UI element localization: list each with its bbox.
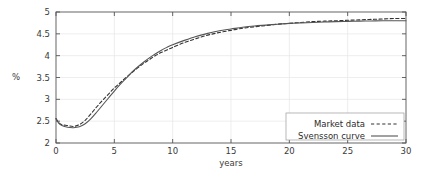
x-tick-label: 20 [284, 146, 295, 156]
x-tick-label: 25 [342, 146, 353, 156]
y-axis-label: % [12, 72, 20, 82]
y-tick-label: 2 [45, 138, 50, 148]
y-tick-label: 3.5 [36, 73, 50, 83]
chart-figure: 051015202530 22.533.544.55 years % Marke… [0, 0, 424, 171]
legend-label-2: Svensson curve [298, 131, 365, 141]
x-tick-label: 30 [401, 146, 412, 156]
chart-legend: Market dataSvensson curve [286, 113, 404, 141]
x-tick-label: 5 [112, 146, 117, 156]
y-tick-label: 4 [45, 51, 50, 61]
y-tick-label: 3 [45, 94, 50, 104]
x-tick-label: 0 [53, 146, 58, 156]
y-tick-label: 4.5 [36, 29, 50, 39]
x-tick-label: 10 [167, 146, 178, 156]
plot-background [0, 0, 424, 171]
x-axis-label: years [219, 158, 243, 168]
y-tick-label: 2.5 [36, 116, 50, 126]
y-tick-label: 5 [45, 7, 50, 17]
x-tick-label: 15 [226, 146, 237, 156]
legend-label-1: Market data [314, 119, 365, 129]
yield-curve-plot: 051015202530 22.533.544.55 years % Marke… [0, 0, 424, 171]
